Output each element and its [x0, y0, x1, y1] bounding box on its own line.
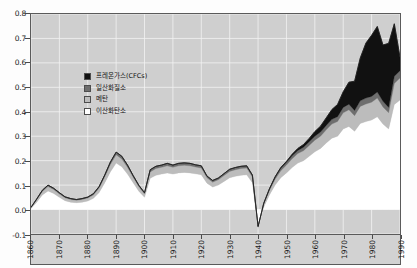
x-tick-mark: [30, 235, 31, 239]
y-tick-mark: [25, 210, 30, 211]
x-tick-label: 1860: [26, 240, 35, 259]
legend-item-label: 일산화질소: [96, 85, 126, 92]
y-tick-mark: [25, 161, 30, 162]
series-areas: [31, 14, 400, 234]
x-tick-label: 1870: [55, 240, 64, 259]
x-tick-mark: [401, 235, 402, 239]
x-tick-mark: [287, 235, 288, 239]
plot-area: [30, 13, 401, 235]
legend-item: 프레온가스(CFCs): [84, 73, 147, 80]
legend-item-label: 메탄: [96, 96, 108, 103]
y-tick-mark: [25, 112, 30, 113]
x-tick-label: 1900: [140, 240, 149, 259]
legend-swatch-icon: [84, 108, 91, 115]
legend-swatch-icon: [84, 85, 91, 92]
x-tick-mark: [372, 235, 373, 239]
y-tick-label: -0.1: [12, 231, 26, 240]
y-tick-mark: [25, 62, 30, 63]
x-tick-label: 1880: [83, 240, 92, 259]
legend-item: 메탄: [84, 96, 147, 103]
x-tick-mark: [344, 235, 345, 239]
y-tick-mark: [25, 136, 30, 137]
x-tick-label: 1980: [368, 240, 377, 259]
x-tick-label: 1970: [340, 240, 349, 259]
x-tick-mark: [116, 235, 117, 239]
legend-swatch-icon: [84, 96, 91, 103]
x-tick-label: 1890: [112, 240, 121, 259]
x-tick-label: 1930: [226, 240, 235, 259]
y-tick-mark: [25, 186, 30, 187]
x-tick-mark: [144, 235, 145, 239]
legend-item-label: 이산화탄소: [96, 108, 126, 115]
x-tick-mark: [315, 235, 316, 239]
y-tick-mark: [25, 87, 30, 88]
x-tick-mark: [258, 235, 259, 239]
legend-swatch-icon: [84, 73, 91, 80]
legend-item: 일산화질소: [84, 85, 147, 92]
x-tick-mark: [87, 235, 88, 239]
x-tick-label: 1940: [254, 240, 263, 259]
legend-item: 이산화탄소: [84, 108, 147, 115]
y-tick-mark: [25, 38, 30, 39]
x-tick-label: 1910: [169, 240, 178, 259]
x-tick-label: 1960: [311, 240, 320, 259]
y-tick-mark: [25, 13, 30, 14]
x-tick-mark: [230, 235, 231, 239]
x-tick-mark: [173, 235, 174, 239]
x-tick-label: 1950: [283, 240, 292, 259]
x-tick-label: 1920: [197, 240, 206, 259]
x-tick-label: 1990: [397, 240, 406, 259]
greenhouse-gas-stacked-area-chart: 프레온가스(CFCs)일산화질소메탄이산화탄소 0.80.70.60.50.40…: [0, 0, 417, 268]
x-tick-mark: [59, 235, 60, 239]
x-tick-mark: [201, 235, 202, 239]
legend-item-label: 프레온가스(CFCs): [96, 73, 147, 80]
legend: 프레온가스(CFCs)일산화질소메탄이산화탄소: [84, 73, 147, 115]
